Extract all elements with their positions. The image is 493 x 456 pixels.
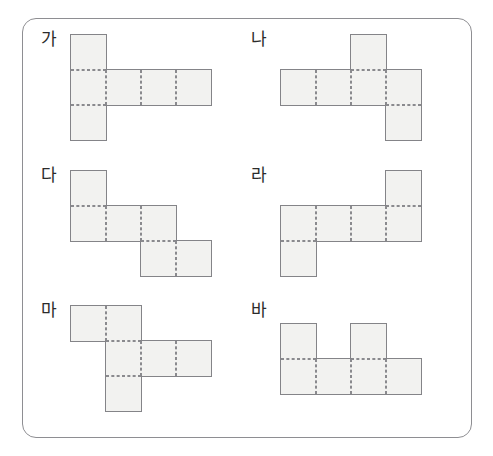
outline-edge-right — [211, 240, 212, 277]
fold-line-top — [281, 359, 316, 360]
cropped-text-fragment-right: –– ·· · · · — [108, 0, 169, 1]
fold-line-top — [71, 206, 106, 207]
outline-edge-bottom — [350, 105, 387, 106]
outline-edge-bottom — [350, 394, 387, 395]
net-square — [386, 359, 421, 394]
net-label-ra: 라 — [251, 167, 267, 184]
fold-line-top — [71, 70, 106, 71]
fold-line-left — [386, 206, 387, 241]
net-square — [106, 376, 141, 411]
outline-edge-bottom — [140, 105, 177, 106]
net-square — [281, 359, 316, 394]
fold-line-top — [351, 359, 386, 360]
fold-line-left — [141, 206, 142, 241]
outline-edge-bottom — [70, 140, 107, 141]
fold-line-left — [106, 306, 107, 341]
net-square — [351, 359, 386, 394]
outline-edge-right — [421, 170, 422, 207]
fold-line-left — [106, 206, 107, 241]
fold-line-top — [106, 376, 141, 377]
outline-edge-bottom — [105, 241, 142, 242]
outline-edge-bottom — [105, 411, 142, 412]
fold-line-left — [316, 206, 317, 241]
fold-line-top — [386, 105, 421, 106]
cropped-text-fragment-left: –– — [26, 0, 41, 1]
net-square — [141, 70, 176, 105]
net-square — [386, 206, 421, 241]
net-square — [71, 105, 106, 140]
fold-line-top — [141, 241, 176, 242]
outline-edge-left — [280, 358, 281, 395]
fold-line-left — [386, 359, 387, 394]
outline-edge-left — [385, 170, 386, 207]
outline-edge-top — [315, 205, 352, 206]
net-square — [316, 206, 351, 241]
outline-edge-top — [350, 205, 387, 206]
outline-edge-bottom — [385, 241, 422, 242]
net-square — [281, 70, 316, 105]
outline-edge-left — [350, 323, 351, 360]
outline-edge-top — [140, 205, 177, 206]
net-square — [176, 341, 211, 376]
net-square — [281, 324, 316, 359]
outline-edge-top — [280, 69, 317, 70]
outline-edge-right — [176, 205, 177, 242]
fold-line-left — [351, 206, 352, 241]
net-square — [141, 206, 176, 241]
fold-line-left — [386, 70, 387, 105]
outline-edge-top — [140, 69, 177, 70]
outline-edge-bottom — [175, 276, 212, 277]
fold-line-left — [176, 241, 177, 276]
outline-edge-top — [385, 170, 422, 171]
net-square — [316, 359, 351, 394]
outline-edge-left — [280, 205, 281, 242]
outline-edge-top — [385, 69, 422, 70]
outline-edge-bottom — [350, 241, 387, 242]
fold-line-left — [176, 341, 177, 376]
fold-line-left — [351, 359, 352, 394]
net-square — [351, 70, 386, 105]
outline-edge-right — [106, 170, 107, 207]
outline-edge-top — [350, 34, 387, 35]
fold-line-top — [281, 241, 316, 242]
outline-edge-top — [140, 340, 177, 341]
outline-edge-left — [140, 240, 141, 277]
outline-edge-right — [316, 323, 317, 360]
fold-line-left — [106, 70, 107, 105]
net-square — [106, 70, 141, 105]
fold-line-top — [351, 70, 386, 71]
outline-edge-bottom — [385, 140, 422, 141]
net-label-na: 나 — [251, 31, 267, 48]
net-square — [71, 70, 106, 105]
net-square — [316, 70, 351, 105]
outline-edge-bottom — [385, 394, 422, 395]
outline-edge-bottom — [140, 376, 177, 377]
outline-edge-top — [70, 170, 107, 171]
outline-edge-bottom — [315, 105, 352, 106]
outline-edge-left — [70, 104, 71, 141]
outline-edge-top — [350, 323, 387, 324]
net-label-ma: 마 — [41, 302, 57, 319]
fold-line-left — [316, 70, 317, 105]
net-square — [106, 206, 141, 241]
net-square — [386, 171, 421, 206]
outline-edge-top — [280, 323, 317, 324]
net-figure-ga: 가 — [39, 31, 244, 156]
outline-edge-right — [421, 69, 422, 106]
outline-edge-left — [70, 170, 71, 207]
outline-edge-right — [106, 104, 107, 141]
outline-edge-left — [105, 375, 106, 412]
outline-edge-bottom — [70, 241, 107, 242]
outline-edge-top — [315, 69, 352, 70]
outline-edge-top — [175, 240, 212, 241]
outline-edge-left — [70, 305, 71, 342]
fold-line-left — [316, 359, 317, 394]
nets-panel: 가 나 다 라 마 바 — [22, 18, 472, 438]
outline-edge-right — [316, 240, 317, 277]
outline-edge-bottom — [280, 105, 317, 106]
outline-edge-bottom — [280, 394, 317, 395]
outline-edge-left — [280, 240, 281, 277]
outline-edge-top — [280, 205, 317, 206]
outline-edge-bottom — [175, 376, 212, 377]
outline-edge-top — [175, 69, 212, 70]
